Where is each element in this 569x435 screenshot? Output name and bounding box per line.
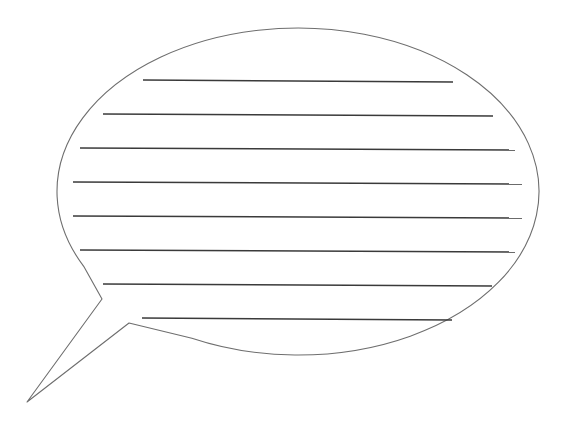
speech-bubble <box>27 28 539 402</box>
speech-bubble-canvas <box>0 0 569 435</box>
speech-bubble-outline <box>27 28 539 402</box>
